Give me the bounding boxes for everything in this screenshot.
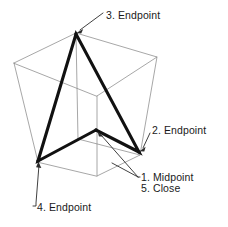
- leader-line-endpoint-2: [143, 133, 150, 148]
- figure-container: 3. Endpoint 2. Endpoint 1. Midpoint 5. C…: [0, 0, 228, 227]
- leader-arrow-endpoint-2: [140, 147, 146, 152]
- box-edge-right: [140, 57, 157, 155]
- leader-lines: [33, 13, 150, 206]
- label-endpoint-3: 3. Endpoint: [106, 9, 160, 21]
- label-close-5: 5. Close: [141, 182, 180, 194]
- vertex-endpoint-4-marker: [36, 159, 39, 162]
- figure-drawing: [0, 0, 228, 227]
- leader-line-endpoint-4: [33, 165, 39, 206]
- box-top-face-edge: [14, 33, 157, 96]
- box-edge-back: [76, 33, 78, 139]
- box-edge-left: [14, 63, 38, 162]
- leader-line-close-5: [112, 163, 138, 177]
- label-endpoint-2: 2. Endpoint: [152, 124, 206, 136]
- leader-line-endpoint-3: [80, 13, 103, 30]
- label-endpoint-4: 4. Endpoint: [37, 201, 91, 213]
- vertex-midpoint-1-marker: [94, 128, 97, 131]
